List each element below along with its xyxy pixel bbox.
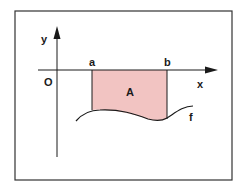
x-axis-arrow-icon: [205, 67, 218, 74]
y-axis-label: y: [41, 33, 48, 45]
area-label: A: [126, 86, 134, 98]
y-axis-arrow-icon: [54, 26, 61, 39]
x-axis-label: x: [197, 78, 204, 90]
a-label: a: [89, 56, 96, 68]
b-label: b: [164, 56, 171, 68]
function-label: f: [189, 111, 193, 123]
origin-label: O: [44, 76, 53, 88]
integral-diagram: y x O a b A f: [0, 0, 243, 194]
